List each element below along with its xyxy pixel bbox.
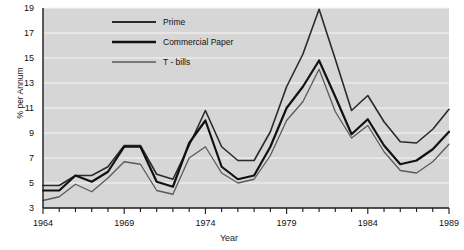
x-tick-label: 1969 [104,218,144,228]
x-tick-label: 1974 [185,218,225,228]
x-tick-label: 1979 [267,218,307,228]
x-tick-label: 1984 [348,218,388,228]
legend-label-commercial-paper: Commercial Paper [163,37,233,47]
legend-label-prime: Prime [163,17,185,27]
x-axis-title: Year [0,233,458,243]
legend-label-t-bills: T - bills [163,57,190,67]
x-tick-label: 1989 [429,218,464,228]
x-tick-label: 1964 [23,218,63,228]
